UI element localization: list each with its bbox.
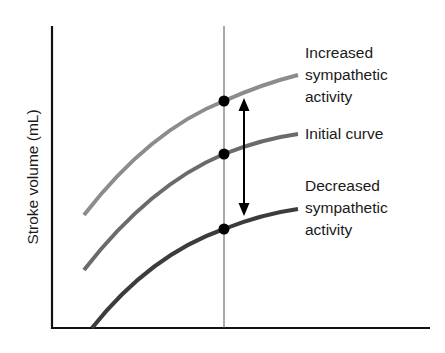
point-initial: [219, 149, 230, 160]
curve-increased-sympathetic: [84, 75, 298, 215]
y-axis-label: Stroke volume (mL): [24, 109, 42, 244]
label-initial: Initial curve: [305, 123, 383, 145]
point-decreased: [219, 224, 230, 235]
point-increased: [219, 96, 230, 107]
label-increased: Increased sympathetic activity: [305, 42, 388, 108]
label-decreased: Decreased sympathetic activity: [305, 175, 388, 241]
curve-initial: [84, 134, 298, 270]
double-arrow-icon: [239, 98, 250, 216]
